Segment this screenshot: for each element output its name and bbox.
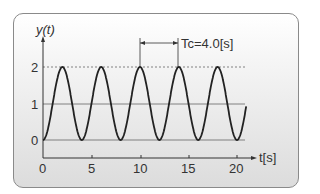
period-label: Tc=4.0[s] — [181, 37, 233, 50]
ytick-2: 2 — [31, 61, 38, 74]
ytick-0: 0 — [31, 134, 38, 147]
x-axis-label: t[s] — [259, 151, 276, 164]
xtick-0: 0 — [39, 162, 46, 175]
xtick-10: 10 — [133, 162, 147, 175]
xtick-5: 5 — [88, 162, 95, 175]
y-axis-label: y(t) — [36, 23, 55, 36]
ytick-1: 1 — [31, 98, 38, 111]
xtick-15: 15 — [181, 162, 195, 175]
series-y-t — [43, 67, 246, 140]
xtick-20: 20 — [229, 162, 243, 175]
x-axis-arrow-icon — [251, 156, 257, 160]
